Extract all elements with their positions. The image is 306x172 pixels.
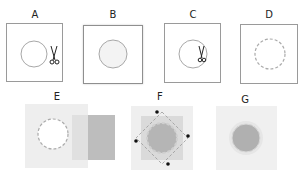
panel-g: [216, 106, 277, 170]
panel-label-c: C: [183, 9, 203, 21]
panel-a: [6, 23, 63, 82]
diamond-alignment-icon: [131, 106, 193, 170]
scissors-icon: [165, 24, 222, 84]
panel-label-a: A: [25, 9, 45, 21]
scissors-icon: [7, 24, 64, 83]
overlay-rect-dark: [88, 115, 115, 160]
filled-circle-icon: [84, 26, 144, 85]
filled-circle-icon: [216, 106, 277, 170]
overlay-rect-light: [72, 115, 89, 160]
panel-label-g: G: [235, 94, 255, 106]
panel-d: [240, 24, 298, 84]
panel-f: [131, 106, 193, 170]
panel-c: [164, 23, 221, 83]
panel-label-b: B: [103, 9, 123, 21]
panel-label-f: F: [150, 91, 170, 103]
panel-label-d: D: [259, 9, 279, 21]
panel-label-e: E: [47, 91, 67, 103]
dashed-circle-icon: [241, 25, 299, 85]
panel-b: [83, 25, 143, 84]
